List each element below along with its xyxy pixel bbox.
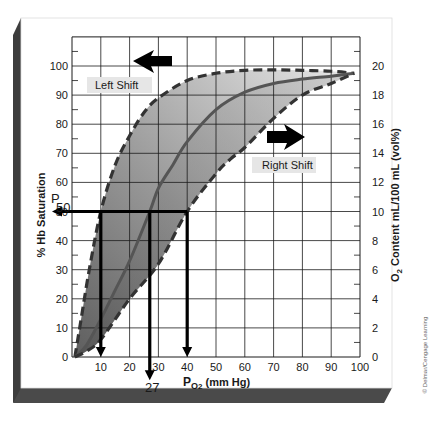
y2-axis-title: O2 Content mL/100 mL (vol%) xyxy=(389,128,404,282)
y2-tick-label: 0 xyxy=(372,351,378,363)
y-tick-label: 0 xyxy=(62,351,68,363)
y2-tick-label: 12 xyxy=(372,176,384,188)
frame-left-bevel xyxy=(13,18,21,403)
y-tick-label: 70 xyxy=(56,147,68,159)
y2-tick-label: 4 xyxy=(372,293,378,305)
oxyhemoglobin-chart: 0102030405060708090100024681012141618201… xyxy=(0,0,437,421)
y-tick-label: 20 xyxy=(56,293,68,305)
x-tick-label: 50 xyxy=(210,361,222,373)
y-tick-label: 10 xyxy=(56,322,68,334)
y2-tick-label: 8 xyxy=(372,235,378,247)
right-shift-label: Right Shift xyxy=(262,159,313,171)
y-tick-label: 60 xyxy=(56,176,68,188)
y2-tick-label: 20 xyxy=(372,60,384,72)
p50-value-label: 27 xyxy=(145,380,159,395)
y2-tick-label: 16 xyxy=(372,118,384,130)
y-tick-label: 90 xyxy=(56,89,68,101)
x-tick-label: 40 xyxy=(181,361,193,373)
y-axis-title: % Hb Saturation xyxy=(35,172,47,257)
x-tick-label: 10 xyxy=(95,361,107,373)
x-tick-label: 60 xyxy=(239,361,251,373)
left-shift-label: Left Shift xyxy=(95,79,138,91)
y2-tick-label: 2 xyxy=(372,322,378,334)
x-tick-label: 20 xyxy=(123,361,135,373)
copyright-credit: © Delmar/Cengage Learning xyxy=(422,317,428,393)
y-tick-label: 40 xyxy=(56,235,68,247)
x-tick-label: 80 xyxy=(296,361,308,373)
x-tick-label: 70 xyxy=(267,361,279,373)
y2-tick-label: 6 xyxy=(372,264,378,276)
y2-tick-label: 14 xyxy=(372,147,384,159)
y-tick-label: 80 xyxy=(56,118,68,130)
y-tick-label: 100 xyxy=(50,60,68,72)
y2-tick-label: 18 xyxy=(372,89,384,101)
y2-tick-label: 10 xyxy=(372,206,384,218)
p50-subscript: 50 xyxy=(56,200,70,215)
y-tick-label: 30 xyxy=(56,264,68,276)
x-tick-label: 90 xyxy=(325,361,337,373)
frame-bottom-bevel xyxy=(13,388,392,403)
x-tick-label: 100 xyxy=(351,361,369,373)
